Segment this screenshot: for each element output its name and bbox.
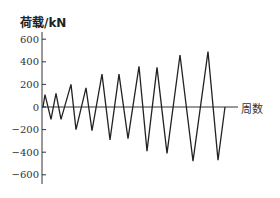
- y-tick-label: −200: [12, 124, 39, 135]
- load-cycle-chart: 6004002000−200−400−600: [0, 0, 280, 198]
- y-axis: 6004002000−200−400−600: [12, 32, 46, 184]
- y-tick-label: −600: [12, 169, 39, 180]
- y-tick-label: 400: [20, 56, 39, 67]
- load-series-line: [43, 52, 225, 162]
- y-tick-label: 200: [20, 79, 39, 90]
- y-tick-label: −400: [12, 147, 39, 158]
- y-tick-label: 600: [20, 34, 39, 45]
- y-tick-label: 0: [33, 102, 39, 113]
